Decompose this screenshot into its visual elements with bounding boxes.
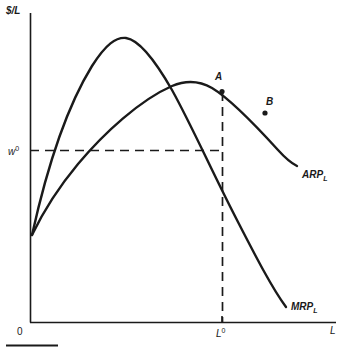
x-axis-title: L [330,326,336,336]
x-tick-label-l0-superscript: 0 [222,327,226,334]
origin-label: 0 [17,327,23,337]
x-tick-label-l0: L0 [216,327,225,339]
y-axis-title: $/L [6,6,20,16]
y-tick-label-w0: w0 [8,145,19,157]
arp-curve-label-base: ARP [302,169,323,180]
mrp-curve-label-subscript: L [313,307,317,314]
diagram-canvas [0,0,344,352]
point-b-label: B [266,97,273,107]
point-a-marker [219,89,224,94]
arp-curve-label: ARPL [302,170,327,182]
mrp-curve-label: MRPL [291,302,318,314]
y-tick-label-w0-superscript: 0 [15,145,19,152]
point-b-marker [262,110,267,115]
economics-diagram-figure: $/L L 0 w0 L0 ARPL MRPL A B [0,0,344,352]
point-a-label: A [215,72,222,82]
arp-curve-label-subscript: L [323,175,327,182]
mrp-curve-label-base: MRP [291,301,313,312]
